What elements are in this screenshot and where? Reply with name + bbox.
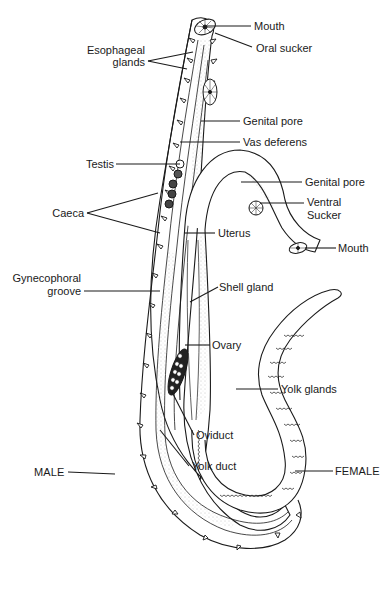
label-uterus: Uterus xyxy=(218,227,250,239)
label-yolk-duct: Yolk duct xyxy=(192,460,236,472)
label-genital-pore-female: Genital pore xyxy=(305,176,365,188)
label-caeca: Caeca xyxy=(40,207,84,219)
label-shell-gland: Shell gland xyxy=(219,281,273,293)
label-female: FEMALE xyxy=(335,465,380,477)
label-testis: Testis xyxy=(70,158,114,170)
worm-diagram xyxy=(0,0,391,597)
label-genital-pore-male: Genital pore xyxy=(243,115,303,127)
label-gynecophoral-groove-line2: groove xyxy=(5,285,81,297)
label-mouth-male: Mouth xyxy=(254,20,285,32)
label-male: MALE xyxy=(34,466,64,478)
label-gynecophoral-groove-line1: Gynecophoral xyxy=(5,272,81,284)
label-esophageal-glands-line2: glands xyxy=(85,56,145,68)
label-ovary: Ovary xyxy=(212,339,241,351)
label-esophageal-glands-line1: Esophageal xyxy=(85,44,145,56)
label-ventral-sucker-line2: Sucker xyxy=(307,209,341,221)
label-yolk-glands: Yolk glands xyxy=(281,383,337,395)
label-ventral-sucker-line1: Ventral xyxy=(307,196,341,208)
male-ventral-sucker xyxy=(203,79,217,105)
label-oral-sucker: Oral sucker xyxy=(256,42,312,54)
label-mouth-female: Mouth xyxy=(338,242,369,254)
label-vas-deferens: Vas deferens xyxy=(243,136,307,148)
label-oviduct: Oviduct xyxy=(196,429,233,441)
